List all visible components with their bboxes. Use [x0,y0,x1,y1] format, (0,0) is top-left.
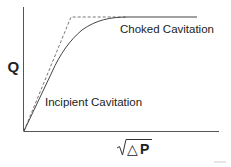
y-axis-label: Q [8,58,20,75]
pressure-variable: P [140,141,149,157]
cavitation-diagram: Q Choked Cavitation Incipient Cavitation… [0,0,231,167]
x-axis-label: △ P [117,140,152,158]
choked-cavitation-label: Choked Cavitation [120,23,214,35]
incipient-cavitation-label: Incipient Cavitation [45,96,142,108]
ideal-flow-dashed-line [24,17,126,131]
delta-symbol: △ [127,141,138,157]
scan-artifact [214,161,226,163]
